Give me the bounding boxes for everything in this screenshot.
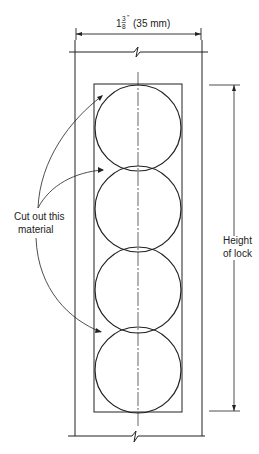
arrowhead-down-icon: [232, 405, 236, 411]
top-dimension: 1 3 8 " (35 mm): [76, 14, 201, 40]
arrowhead-icon: [95, 328, 102, 333]
leader-3: [36, 238, 101, 332]
dimension-denominator: 8: [122, 23, 126, 30]
leader-1: [38, 96, 102, 208]
height-label-line-2: of lock: [223, 248, 253, 259]
arrowhead-icon: [98, 167, 104, 173]
arrowhead-right-icon: [195, 32, 201, 36]
leader-2: [38, 170, 103, 208]
arrowhead-up-icon: [232, 85, 236, 91]
dimension-numerator: 3: [122, 15, 126, 22]
callout-line-1: Cut out this: [14, 211, 65, 222]
break-line-top: [69, 47, 208, 57]
dimension-metric: (35 mm): [133, 18, 170, 29]
height-label-line-1: Height: [223, 235, 252, 246]
arrowhead-icon: [97, 95, 103, 101]
break-line-bottom: [68, 431, 205, 442]
arrowhead-left-icon: [76, 32, 82, 36]
callout-line-2: material: [18, 224, 54, 235]
cut-out-callout: Cut out this material: [14, 95, 104, 333]
height-dimension: Height of lock: [209, 85, 253, 411]
lock-mortise-diagram: 1 3 8 " (35 mm) Cut out this material: [0, 0, 259, 454]
inch-mark: ": [127, 14, 130, 21]
